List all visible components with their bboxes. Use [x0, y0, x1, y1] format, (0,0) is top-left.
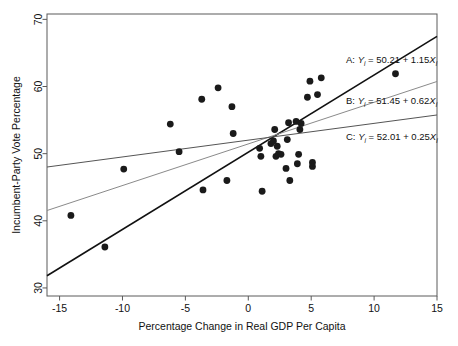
data-point	[314, 91, 321, 98]
annotation-B: B: Yi = 51.45 + 0.62Xi	[346, 95, 438, 108]
data-point	[68, 212, 75, 219]
data-point	[296, 126, 303, 133]
data-point	[283, 165, 290, 172]
y-axis-title: Incumbent-Party Vote Percentage	[10, 76, 22, 234]
data-point	[200, 187, 207, 194]
data-point	[295, 151, 302, 158]
x-tick-label: 10	[368, 302, 380, 314]
data-point	[285, 119, 292, 126]
annotation-text-C: C: Yi = 52.01 + 0.25Xi	[346, 131, 438, 144]
data-point	[198, 96, 205, 103]
x-tick-label: -5	[181, 302, 190, 314]
x-tick-label: 15	[431, 302, 443, 314]
y-tick-label: 60	[32, 81, 44, 93]
data-point	[257, 153, 264, 160]
data-point	[318, 74, 325, 81]
y-tick-label: 50	[32, 148, 44, 160]
x-tick-label: -10	[115, 302, 130, 314]
y-tick-label: 40	[32, 215, 44, 227]
scatter-plot-figure: -15-10-5051015 3040506070 A: Yi = 50.21 …	[0, 0, 458, 346]
data-point	[167, 121, 174, 128]
y-tick-label: 70	[32, 13, 44, 25]
annotation-text-A: A: Yi = 50.21 + 1.15Xi	[346, 54, 438, 67]
data-point	[215, 84, 222, 91]
data-point	[284, 136, 291, 143]
data-point	[271, 126, 278, 133]
data-point	[392, 70, 399, 77]
data-point	[224, 177, 231, 184]
data-point	[256, 145, 263, 152]
data-point	[101, 244, 108, 251]
data-point	[230, 130, 237, 137]
plot-svg: -15-10-5051015 3040506070 A: Yi = 50.21 …	[0, 0, 458, 346]
annotation-A: A: Yi = 50.21 + 1.15Xi	[346, 54, 438, 67]
data-point	[274, 143, 281, 150]
data-point	[176, 148, 183, 155]
figure-background	[0, 0, 458, 346]
data-point	[304, 94, 311, 101]
data-point	[294, 160, 301, 167]
x-tick-label: -15	[52, 302, 67, 314]
data-point	[309, 163, 316, 170]
data-point	[278, 151, 285, 158]
data-point	[286, 177, 293, 184]
data-point	[120, 166, 127, 173]
x-tick-label: 0	[245, 302, 251, 314]
y-tick-label: 30	[32, 282, 44, 294]
annotation-text-B: B: Yi = 51.45 + 0.62Xi	[346, 95, 438, 108]
data-point	[259, 188, 266, 195]
data-point	[298, 120, 305, 127]
x-tick-label: 5	[308, 302, 314, 314]
data-point	[229, 103, 236, 110]
x-axis-title: Percentage Change in Real GDP Per Capita	[138, 320, 345, 332]
annotation-C: C: Yi = 52.01 + 0.25Xi	[346, 131, 438, 144]
data-point	[307, 78, 314, 85]
